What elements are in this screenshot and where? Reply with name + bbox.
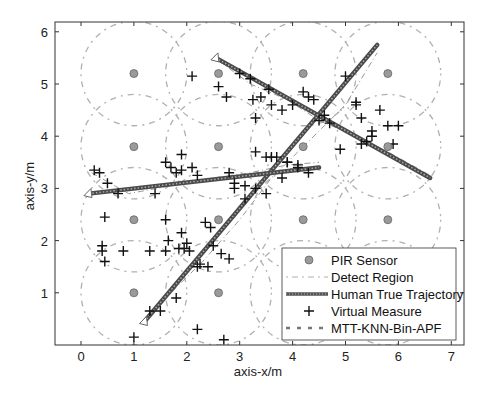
pir-sensor-icon [215,289,223,297]
y-tick-label: 5 [41,77,48,92]
pir-sensor-icon [299,143,307,151]
y-axis-label: axis-y/m [22,162,37,210]
pir-sensor-icon [384,216,392,224]
legend-label: Detect Region [331,270,413,285]
x-tick-label: 2 [183,349,190,364]
y-tick-label: 6 [41,25,48,40]
pir-sensor-icon [130,70,138,78]
pir-sensor-icon [215,70,223,78]
pir-sensor-icon [299,216,307,224]
pir-sensor-icon [384,70,392,78]
pir-sensor-icon [130,143,138,151]
x-tick-label: 6 [395,349,402,364]
chart: 01234567 123456 axis-x/m axis-y/m PIR Se… [0,0,490,397]
y-tick-label: 3 [41,181,48,196]
sensor-icon [305,256,313,264]
x-axis-label: axis-x/m [234,364,282,379]
legend: PIR Sensor Detect Region Human True Traj… [282,248,464,340]
pir-sensor-icon [130,289,138,297]
y-tick-label: 2 [41,234,48,249]
y-tick-label: 1 [41,286,48,301]
x-tick-label: 4 [289,349,296,364]
legend-label: MTT-KNN-Bin-APF [331,321,442,336]
x-tick-label: 0 [77,349,84,364]
x-tick-label: 3 [236,349,243,364]
x-tick-label: 7 [448,349,455,364]
legend-label: Human True Trajectory [331,287,464,302]
pir-sensor-icon [299,70,307,78]
pir-sensor-icon [384,143,392,151]
legend-label: Virtual Measure [331,304,422,319]
legend-label: PIR Sensor [331,253,398,268]
pir-sensor-icon [215,216,223,224]
pir-sensor-icon [130,216,138,224]
x-tick-label: 5 [342,349,349,364]
x-tick-label: 1 [130,349,137,364]
pir-sensor-icon [215,143,223,151]
y-tick-label: 4 [41,129,48,144]
